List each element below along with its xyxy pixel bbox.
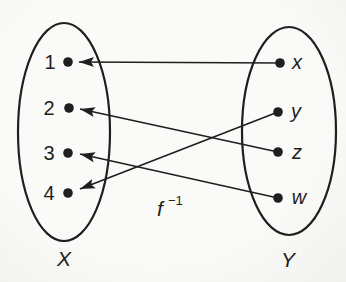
function-label-exponent: −1 xyxy=(168,193,183,208)
dot-element-y xyxy=(273,107,283,117)
set-label-x: X xyxy=(56,247,72,270)
set-x-oval xyxy=(18,23,110,241)
dot-element-1 xyxy=(63,57,73,67)
mapping-diagram-svg: 1 2 3 4 x y z w X Y f −1 xyxy=(0,0,346,282)
function-label-base: f xyxy=(157,197,165,220)
label-element-3: 3 xyxy=(43,142,54,164)
set-y-oval xyxy=(242,27,336,235)
label-element-x: x xyxy=(291,51,303,73)
label-element-1: 1 xyxy=(44,51,55,73)
dot-element-2 xyxy=(64,103,74,113)
inverse-function-mapping-figure: 1 2 3 4 x y z w X Y f −1 xyxy=(0,0,346,282)
dot-element-x xyxy=(275,58,285,68)
arrow-w-to-3 xyxy=(80,154,278,198)
dot-element-3 xyxy=(63,148,73,158)
label-element-z: z xyxy=(291,141,302,163)
arrow-x-to-1 xyxy=(79,62,280,63)
label-element-2: 2 xyxy=(43,97,54,119)
label-element-y: y xyxy=(289,100,302,122)
dot-element-z xyxy=(273,147,283,157)
dot-element-w xyxy=(273,193,283,203)
dot-element-4 xyxy=(63,188,73,198)
label-element-w: w xyxy=(292,186,308,208)
label-element-4: 4 xyxy=(43,182,54,204)
set-label-y: Y xyxy=(281,248,297,271)
